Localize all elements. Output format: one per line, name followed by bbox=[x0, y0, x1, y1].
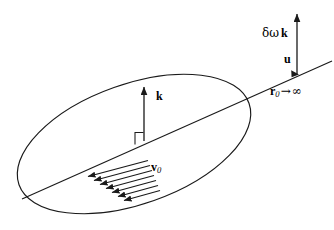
right-angle-marker bbox=[135, 133, 144, 145]
k-vector-glyph: k bbox=[279, 26, 288, 40]
r-subscript: 0 bbox=[275, 89, 279, 99]
figure-canvas: δωk u r0→∞ k v0 bbox=[0, 0, 334, 230]
omega-glyph: ω bbox=[269, 26, 279, 40]
label-r0-infinity: r0→∞ bbox=[270, 85, 302, 99]
infinity-glyph: ∞ bbox=[292, 84, 302, 98]
k-normal-glyph: k bbox=[156, 89, 163, 103]
u-vector-glyph: u bbox=[284, 52, 291, 66]
v-subscript: 0 bbox=[157, 165, 161, 175]
limit-arrow-glyph: → bbox=[280, 84, 292, 98]
label-v0: v0 bbox=[151, 161, 161, 175]
axis-ray bbox=[22, 61, 332, 199]
velocity-field-arrows bbox=[88, 161, 160, 201]
label-k: k bbox=[156, 90, 163, 102]
label-u: u bbox=[284, 53, 291, 65]
label-delta-omega-k: δωk bbox=[262, 27, 288, 39]
